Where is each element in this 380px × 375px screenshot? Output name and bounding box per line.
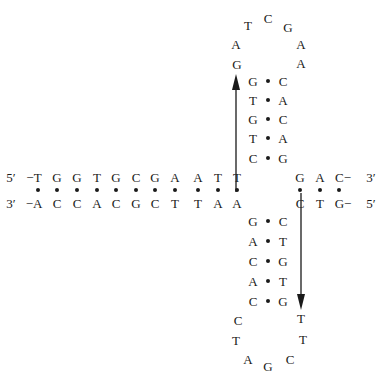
top-base: G [72, 171, 81, 184]
bottom-strand-5prime-label: 5′ [366, 197, 375, 210]
upper-loop-base: G [283, 21, 292, 34]
base-pair-dot [216, 188, 220, 192]
lower-stem-right-base: C [279, 215, 288, 228]
bottom-base: G [131, 197, 140, 210]
base-pair-dot [235, 188, 239, 192]
top-base: A [315, 171, 324, 184]
bottom-base: G− [335, 197, 352, 210]
upper-stem-left-base: G [248, 113, 257, 126]
base-pair-dot [196, 188, 200, 192]
top-base: G [52, 171, 61, 184]
lower-stem-right-base: T [279, 235, 287, 248]
lower-stem-left-base: A [248, 275, 257, 288]
bottom-base: C [151, 197, 160, 210]
upper-stem-left-base: C [249, 152, 258, 165]
base-pair-dot [153, 188, 157, 192]
base-pair-dot [266, 136, 270, 140]
base-pair-dot [266, 299, 270, 303]
base-pair-dot [75, 188, 79, 192]
bottom-strand-3prime-label: 3′ [6, 197, 15, 210]
bottom-base: C [73, 197, 82, 210]
lower-stem-left-base: C [249, 255, 258, 268]
base-pair-dot [134, 188, 138, 192]
lower-stem-left-base: C [249, 295, 258, 308]
bottom-base: −A [26, 197, 43, 210]
lower-loop-base: C [286, 353, 295, 366]
top-base: T [233, 171, 241, 184]
base-pair-dot [337, 188, 341, 192]
top-base: G [111, 171, 120, 184]
upper-stem-right-base: C [279, 113, 288, 126]
lower-loop-base: A [243, 353, 252, 366]
top-strand-3prime-label: 3′ [366, 171, 375, 184]
bottom-base: C [296, 197, 305, 210]
lower-stem-left-base: G [248, 215, 257, 228]
base-pair-dot [36, 188, 40, 192]
bottom-base: T [194, 197, 202, 210]
base-pair-dot [266, 117, 270, 121]
upper-loop-base: T [244, 19, 252, 32]
lower-loop-base: T [299, 333, 307, 346]
lower-loop-base: C [234, 314, 243, 327]
upper-loop-base: A [231, 38, 240, 51]
top-base: A [193, 171, 202, 184]
bottom-base: A [232, 197, 241, 210]
base-pair-dot [298, 188, 302, 192]
base-pair-dot [266, 259, 270, 263]
top-base: −T [26, 171, 41, 184]
down-arrow-icon [297, 193, 305, 310]
lower-stem-right-base: G [278, 255, 287, 268]
upper-stem-left-base: T [249, 94, 257, 107]
lower-loop-base: T [232, 334, 240, 347]
top-base: T [93, 171, 101, 184]
bottom-base: T [316, 197, 324, 210]
bottom-base: A [213, 197, 222, 210]
upper-stem-right-base: A [278, 132, 287, 145]
upper-loop-base: G [232, 58, 241, 71]
bottom-base: C [53, 197, 62, 210]
top-base: C [132, 171, 141, 184]
base-pair-dot [318, 188, 322, 192]
base-pair-dot [266, 279, 270, 283]
upper-stem-right-base: C [279, 75, 288, 88]
top-strand-5prime-label: 5′ [6, 171, 15, 184]
lower-loop-base: T [297, 312, 305, 325]
base-pair-dot [55, 188, 59, 192]
upper-stem-left-base: T [249, 132, 257, 145]
base-pair-dot [114, 188, 118, 192]
cruciform-diagram: 5′ 3′ 3′ 5′ −T G G T G C G A A T T G A C… [0, 0, 380, 375]
base-pair-dot [266, 98, 270, 102]
upper-loop-base: A [296, 38, 305, 51]
upper-stem-right-base: A [278, 94, 287, 107]
top-base: G [150, 171, 159, 184]
base-pair-dot [266, 239, 270, 243]
lower-stem-left-base: A [248, 235, 257, 248]
base-pair-dot [173, 188, 177, 192]
upper-loop-base: C [264, 12, 273, 25]
upper-stem-right-base: G [278, 152, 287, 165]
upper-stem-left-base: G [248, 75, 257, 88]
top-base: T [214, 171, 222, 184]
base-pair-dot [266, 79, 270, 83]
base-pair-dot [266, 219, 270, 223]
top-base: C− [335, 171, 351, 184]
bottom-base: A [92, 197, 101, 210]
base-pair-dot [266, 156, 270, 160]
bottom-base: T [171, 197, 179, 210]
bottom-base: C [112, 197, 121, 210]
top-base: G [295, 171, 304, 184]
base-pair-dot [95, 188, 99, 192]
top-base: A [170, 171, 179, 184]
lower-stem-right-base: G [278, 295, 287, 308]
lower-stem-right-base: T [279, 275, 287, 288]
upper-loop-base: A [296, 57, 305, 70]
lower-loop-base: G [263, 360, 272, 373]
